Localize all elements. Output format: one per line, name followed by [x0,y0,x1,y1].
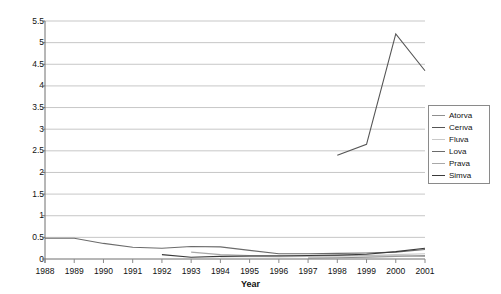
legend: AtorvaCerıvaFluvaLovaPravaSimva [428,105,490,184]
legend-swatch-icon [432,175,445,176]
series-line-cerıva [337,34,425,155]
legend-label: Prava [449,159,470,168]
legend-swatch-icon [432,127,445,128]
legend-item-fluva[interactable]: Fluva [429,133,489,145]
legend-item-simva[interactable]: Simva [429,169,489,181]
legend-label: Fluva [449,135,469,144]
legend-item-lova[interactable]: Lova [429,145,489,157]
series-line-lova [45,238,425,254]
line-chart: Reported cases/100,000 prescriptions dis… [0,0,501,294]
legend-item-atorva[interactable]: Atorva [429,109,489,121]
legend-label: Atorva [449,111,472,120]
legend-item-cerıva[interactable]: Cerıva [429,121,489,133]
legend-swatch-icon [432,151,445,152]
legend-swatch-icon [432,139,445,140]
legend-swatch-icon [432,163,445,164]
plot-area [0,0,501,294]
x-axis-tick-label: 2001 [408,266,442,276]
legend-item-prava[interactable]: Prava [429,157,489,169]
legend-label: Simva [449,171,471,180]
legend-label: Cerıva [449,123,473,132]
x-axis-title: Year [0,279,501,289]
legend-label: Lova [449,147,466,156]
legend-swatch-icon [432,115,445,116]
